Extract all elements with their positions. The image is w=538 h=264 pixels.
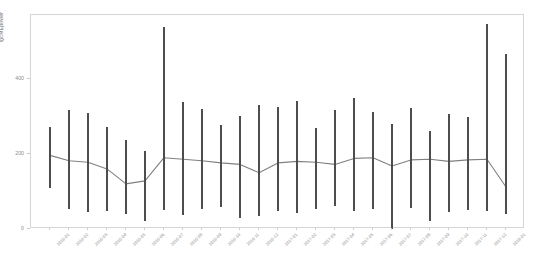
x-tick-mark <box>448 228 449 230</box>
error-bar <box>467 117 468 210</box>
x-tick-mark <box>334 228 335 230</box>
x-tick-label: 2017-06 <box>379 232 394 247</box>
x-tick-mark <box>239 228 240 230</box>
x-tick-label: 2016-09 <box>208 232 223 247</box>
x-tick-mark <box>505 228 506 230</box>
error-bar <box>429 131 430 221</box>
error-bar <box>410 108 411 208</box>
x-tick-mark <box>258 228 259 230</box>
y-tick-label: 400 <box>6 75 24 81</box>
x-tick-label: 2017-11 <box>474 232 488 246</box>
x-tick-mark <box>429 228 430 230</box>
x-tick-mark <box>182 228 183 230</box>
x-tick-label: 2017-01 <box>284 232 299 247</box>
error-bar <box>391 124 392 229</box>
x-tick-label: 2018-01 <box>512 232 527 247</box>
x-tick-mark <box>201 228 202 230</box>
x-tick-mark <box>410 228 411 230</box>
x-tick-label: 2016-12 <box>265 232 280 247</box>
x-tick-label: 2016-10 <box>227 232 242 247</box>
chart-root: lgcMEpower 0200400 2016-012016-022016-03… <box>0 0 538 264</box>
x-tick-label: 2017-05 <box>360 232 375 247</box>
x-tick-mark <box>372 228 373 230</box>
error-bar <box>106 127 107 211</box>
x-tick-label: 2017-04 <box>341 232 356 247</box>
x-tick-mark <box>87 228 88 230</box>
x-tick-label: 2017-07 <box>398 232 413 247</box>
error-bar <box>505 54 506 214</box>
error-bar <box>144 151 145 221</box>
x-tick-label: 2016-11 <box>246 232 260 246</box>
x-tick-mark <box>296 228 297 230</box>
error-bar <box>353 98 354 211</box>
error-bar <box>163 27 164 210</box>
error-bar <box>334 110 335 207</box>
x-tick-label: 2016-04 <box>113 232 128 247</box>
x-tick-label: 2017-09 <box>436 232 451 247</box>
x-tick-label: 2016-06 <box>151 232 166 247</box>
x-tick-mark <box>220 228 221 230</box>
x-tick-label: 2016-01 <box>56 232 71 247</box>
x-tick-mark <box>49 228 50 230</box>
error-bar <box>277 107 278 211</box>
x-tick-label: 2017-12 <box>493 232 508 247</box>
x-tick-label: 2016-05 <box>132 232 147 247</box>
x-tick-mark <box>163 228 164 230</box>
y-tick-label: 200 <box>6 150 24 156</box>
error-bar <box>49 127 50 189</box>
x-tick-label: 2016-03 <box>94 232 109 247</box>
error-bar <box>201 109 202 210</box>
x-tick-label: 2016-02 <box>75 232 90 247</box>
x-tick-mark <box>353 228 354 230</box>
x-tick-label: 2017-08 <box>417 232 432 247</box>
y-axis-label: lgcMEpower <box>0 0 4 72</box>
error-bar <box>486 24 487 211</box>
x-tick-mark <box>277 228 278 230</box>
error-bar <box>296 101 297 213</box>
y-tick-label: 0 <box>6 225 24 231</box>
error-bar <box>68 110 69 210</box>
x-tick-mark <box>125 228 126 230</box>
error-bar <box>125 140 126 214</box>
y-tick-mark <box>27 228 30 229</box>
x-tick-mark <box>467 228 468 230</box>
error-bar <box>258 105 259 216</box>
plot-area <box>30 14 524 228</box>
x-tick-label: 2016-08 <box>189 232 204 247</box>
x-tick-mark <box>391 228 392 230</box>
error-bar <box>220 125 221 207</box>
x-tick-mark <box>144 228 145 230</box>
error-bar <box>182 102 183 215</box>
x-tick-label: 2017-02 <box>303 232 318 247</box>
x-tick-mark <box>486 228 487 230</box>
x-tick-label: 2017-03 <box>322 232 337 247</box>
error-bar <box>448 114 449 212</box>
error-bar <box>87 113 88 213</box>
x-tick-label: 2017-10 <box>455 232 470 247</box>
error-bar <box>315 128 316 209</box>
x-tick-mark <box>315 228 316 230</box>
x-tick-mark <box>106 228 107 230</box>
error-bar <box>372 112 373 210</box>
x-tick-label: 2016-07 <box>170 232 185 247</box>
x-tick-mark <box>68 228 69 230</box>
error-bar <box>239 116 240 218</box>
